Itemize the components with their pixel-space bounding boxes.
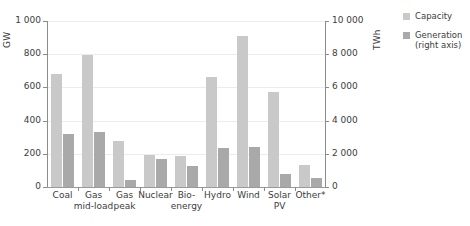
axis-tick — [325, 154, 329, 155]
plot-area: 02004006008001 000 02 0004 0006 0008 000… — [47, 21, 326, 187]
right-tick-label: 10 000 — [332, 15, 364, 25]
legend-swatch-icon — [403, 32, 410, 39]
bar-group — [113, 21, 136, 187]
chart-container: GW TWh 02004006008001 000 02 0004 0006 0… — [0, 0, 470, 226]
bar-group — [299, 21, 322, 187]
bar-capacity — [206, 77, 217, 187]
legend-label: Generation (right axis) — [415, 30, 462, 51]
bar-capacity — [237, 36, 248, 187]
axis-tick — [325, 87, 329, 88]
legend-item[interactable]: Capacity — [403, 11, 462, 22]
bar-group — [206, 21, 229, 187]
bar-generation — [311, 178, 322, 187]
left-tick-label: 1 000 — [15, 15, 41, 25]
bar-generation — [156, 159, 167, 187]
bar-capacity — [113, 141, 124, 187]
right-tick-label: 4 000 — [332, 115, 358, 125]
left-tick-label: 600 — [24, 81, 41, 91]
bar-generation — [280, 174, 291, 187]
bar-generation — [218, 148, 229, 187]
bar-group — [82, 21, 105, 187]
axis-tick — [43, 121, 47, 122]
bar-capacity — [268, 92, 279, 187]
right-tick-label: 2 000 — [332, 148, 358, 158]
axis-tick — [325, 54, 329, 55]
axis-tick — [43, 54, 47, 55]
bar-generation — [125, 180, 136, 187]
bar-capacity — [82, 55, 93, 187]
bar-capacity — [175, 156, 186, 187]
left-tick-label: 400 — [24, 115, 41, 125]
right-axis-line — [325, 21, 326, 187]
bar-capacity — [144, 155, 155, 187]
bar-generation — [249, 147, 260, 187]
legend-label: Capacity — [415, 11, 452, 22]
axis-tick — [325, 21, 329, 22]
bar-group — [237, 21, 260, 187]
left-tick-label: 200 — [24, 148, 41, 158]
x-category-label: Other* — [289, 190, 332, 201]
axis-tick — [43, 154, 47, 155]
left-axis-title: GW — [2, 32, 12, 48]
axis-tick — [325, 187, 329, 188]
axis-tick — [43, 21, 47, 22]
bar-capacity — [299, 165, 310, 187]
bar-generation — [94, 132, 105, 187]
gridline — [47, 187, 326, 188]
bar-capacity — [51, 74, 62, 187]
right-tick-label: 6 000 — [332, 81, 358, 91]
bar-group — [144, 21, 167, 187]
right-tick-label: 0 — [332, 181, 338, 191]
legend-swatch-icon — [403, 13, 410, 20]
axis-tick — [325, 121, 329, 122]
bar-generation — [187, 166, 198, 187]
bar-group — [175, 21, 198, 187]
axis-tick — [43, 187, 47, 188]
bar-generation — [63, 134, 74, 187]
legend-item[interactable]: Generation (right axis) — [403, 30, 462, 51]
left-axis-line — [47, 21, 48, 187]
bar-group — [268, 21, 291, 187]
chart-legend: CapacityGeneration (right axis) — [403, 11, 462, 59]
left-tick-label: 800 — [24, 48, 41, 58]
bar-group — [51, 21, 74, 187]
right-tick-label: 8 000 — [332, 48, 358, 58]
right-axis-title: TWh — [372, 29, 382, 50]
axis-tick — [43, 87, 47, 88]
